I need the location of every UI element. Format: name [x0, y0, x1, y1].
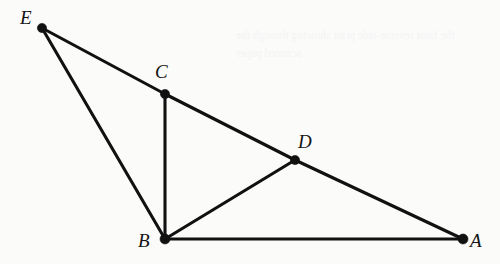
vertex-label-A: A [470, 231, 482, 250]
vertex-dot-A [458, 234, 468, 244]
geometry-figure: the faint reverse-side print showing thr… [0, 0, 500, 264]
vertex-dot-E [37, 23, 46, 32]
figure-canvas [0, 0, 500, 264]
edges-group [42, 28, 463, 239]
vertex-label-D: D [298, 132, 312, 151]
vertex-label-E: E [20, 8, 32, 27]
vertex-dot-C [160, 89, 169, 98]
vertex-label-C: C [155, 62, 168, 81]
edge-C-D [165, 94, 295, 160]
vertex-dot-D [290, 155, 299, 164]
vertex-dot-B [160, 234, 170, 244]
edge-B-D [165, 160, 295, 239]
edge-D-A [295, 160, 463, 239]
vertex-label-B: B [138, 231, 150, 250]
